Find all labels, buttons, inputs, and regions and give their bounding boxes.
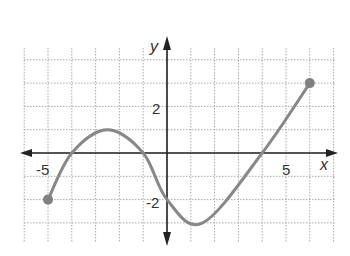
x-tick-label-5: 5: [282, 161, 290, 178]
y-axis-arrow-up-icon: [163, 36, 171, 50]
x-tick-label-neg5: -5: [36, 161, 49, 178]
function-curve: [48, 83, 310, 225]
endpoint-dot: [305, 78, 315, 88]
y-tick-label-2: 2: [152, 100, 160, 117]
y-tick-label-neg2: -2: [146, 194, 159, 211]
y-axis-label: y: [149, 38, 159, 55]
y-axis-arrow-down-icon: [163, 232, 171, 246]
x-axis-label: x: [319, 156, 329, 173]
endpoint-dot: [43, 195, 53, 205]
function-graph: y x -5 5 2 -2: [0, 0, 350, 256]
x-axis-arrow-left-icon: [20, 149, 32, 157]
